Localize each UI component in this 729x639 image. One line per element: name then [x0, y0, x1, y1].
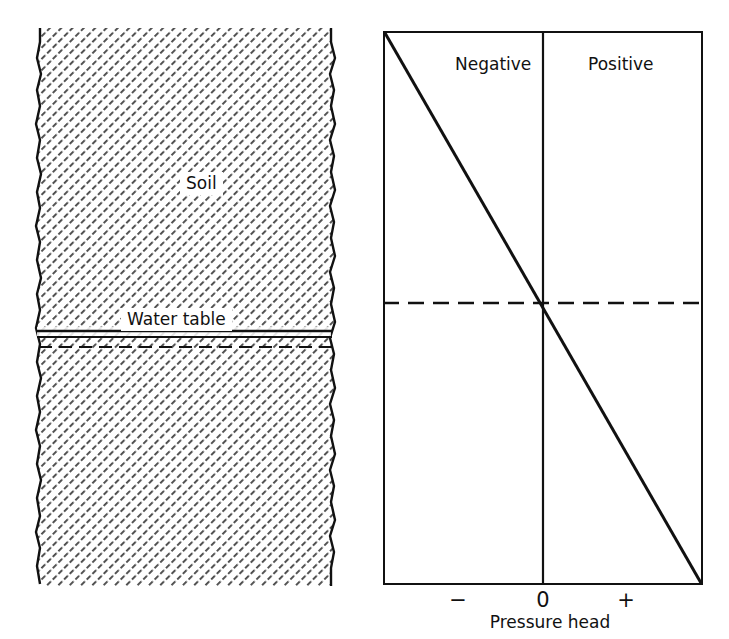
pressure-head-chart-panel: Negative Positive: [383, 31, 703, 585]
x-tick-label-minus: −: [449, 590, 467, 611]
x-tick-label-plus: +: [617, 590, 635, 611]
quadrant-label-negative: Negative: [455, 56, 531, 73]
chart-plot-area: [383, 31, 703, 585]
water-table-label: Water table: [121, 308, 232, 331]
x-axis-title: Pressure head: [490, 614, 610, 631]
soil-label: Soil: [180, 172, 223, 195]
quadrant-label-positive: Positive: [588, 56, 654, 73]
x-tick-label-zero: 0: [536, 590, 549, 611]
figure-water-table-pressure-head: Soil Water table Negative Positive − 0 +…: [0, 0, 729, 639]
soil-profile-panel: Soil Water table: [33, 28, 338, 586]
